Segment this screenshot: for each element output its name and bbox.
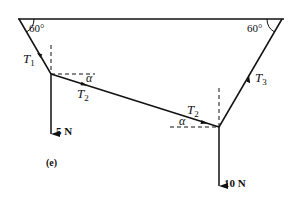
t2-arrowhead-right-icon bbox=[201, 120, 209, 124]
load-10n-label: 10 N bbox=[224, 177, 246, 189]
left-angle-label: 60° bbox=[29, 22, 44, 34]
alpha-right-label: α bbox=[179, 114, 186, 128]
right-angle-label: 60° bbox=[247, 22, 262, 34]
rope-t3 bbox=[219, 19, 282, 127]
t3-label: T3 bbox=[255, 70, 267, 87]
force-diagram: 60° 60° T1 T2 T2 T3 α α 5 N 10 N (e) bbox=[0, 0, 296, 199]
t2-right-label: T2 bbox=[187, 102, 199, 119]
t1-label: T1 bbox=[23, 51, 35, 68]
figure-label: (e) bbox=[46, 157, 57, 169]
alpha-left-label: α bbox=[86, 71, 93, 85]
t2-left-label: T2 bbox=[77, 86, 89, 103]
right-angle-arc bbox=[267, 19, 275, 32]
load-5n-label: 5 N bbox=[56, 125, 72, 137]
